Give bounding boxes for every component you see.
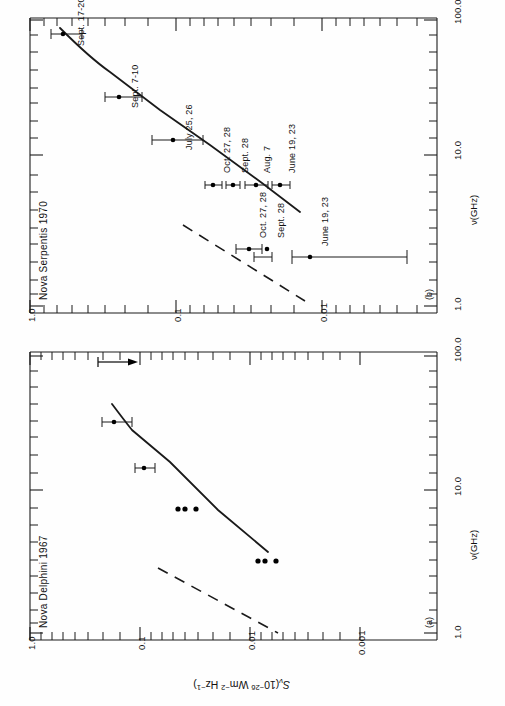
- panel-a-xaxis-title: ν(GHz): [468, 530, 479, 560]
- panel-a-xtick-100: 100.0: [452, 337, 463, 362]
- point-label-june-19-23-low: June 19, 23: [320, 197, 330, 246]
- panel-b-title: Nova Serpentis 1970: [38, 201, 49, 300]
- flux-symbol: S: [283, 679, 290, 691]
- panel-b-tag: (b): [424, 289, 434, 300]
- point-label-aug-7: Aug. 7: [262, 146, 272, 173]
- panel-b-xtick-10: 10.0: [452, 141, 463, 160]
- panel-a-ytick-0_001: 0.001: [356, 630, 367, 655]
- point-label-sept-28-low: Sept. 28: [276, 203, 286, 238]
- panel-b-xaxis-title: ν(GHz): [468, 195, 479, 225]
- flux-close: ): [193, 679, 197, 691]
- point-label-june-19-23-mid: June 19, 23: [287, 124, 297, 173]
- flux-exp-1: −26: [251, 683, 264, 692]
- point-label-oct-27-28-low: Oct. 27, 28: [258, 192, 268, 238]
- point-label-sept-7-10: Sept. 7-10: [130, 64, 140, 108]
- point-label-oct-27-28-mid: Oct. 27, 28: [222, 127, 232, 173]
- flux-subscript: ν: [279, 677, 283, 686]
- panel-b-nova-serpentis: Nova Serpentis 1970 (b) 100.0 10.0 1.0 ν…: [0, 0, 505, 330]
- panel-b-ytick-1: 1.0: [26, 308, 37, 322]
- panel-b-xtick-1: 1.0: [452, 297, 463, 311]
- point-label-sept-28-mid: Sept. 28: [240, 138, 250, 173]
- panel-a-ytick-0_01: 0.01: [246, 631, 257, 650]
- panel-a-tag: (a): [424, 617, 434, 628]
- flux-exp-3: −1: [197, 683, 206, 692]
- panel-a-nova-delphini: Nova Delphini 1967 (a) 100.0 10.0 1.0 ν(…: [0, 340, 505, 660]
- panel-a-title: Nova Delphini 1967: [38, 535, 49, 628]
- point-label-sept-17-20: Sept. 17-20: [76, 0, 86, 46]
- panel-a-graphics: [0, 340, 505, 660]
- panel-b-ytick-0_1: 0.1: [172, 308, 183, 322]
- panel-a-xtick-10: 10.0: [452, 477, 463, 496]
- panel-a-xtick-1: 1.0: [452, 625, 463, 639]
- panel-a-ytick-1: 1.0: [26, 636, 37, 650]
- flux-axis-title: Sν(10−26 Wm−2 Hz−1): [193, 677, 290, 692]
- panel-a-ytick-0_1: 0.1: [136, 636, 147, 650]
- figure-canvas: Nova Serpentis 1970 (b) 100.0 10.0 1.0 ν…: [0, 0, 505, 706]
- point-label-july-25-26: July 25, 26: [184, 104, 194, 150]
- flux-body: (10: [264, 679, 279, 691]
- flux-mid-1: Wm: [230, 679, 252, 691]
- flux-exp-2: −2: [221, 683, 230, 692]
- panel-b-xtick-100: 100.0: [452, 0, 463, 24]
- panel-b-ytick-0_01: 0.01: [318, 303, 329, 322]
- flux-mid-2: Hz: [205, 679, 221, 691]
- panel-b-graphics: [0, 0, 505, 335]
